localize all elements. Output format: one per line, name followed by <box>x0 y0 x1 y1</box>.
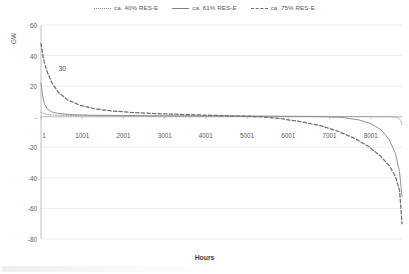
x-tick-label: 4001 <box>199 132 213 139</box>
legend-swatch-dotted-icon <box>94 5 111 11</box>
x-tick-label: 2001 <box>116 132 130 139</box>
x-tick-label: 8001 <box>364 132 378 139</box>
x-tick-label: 3001 <box>158 132 172 139</box>
y-axis-tick-labels: 604020--20-40-60-80 <box>0 25 37 239</box>
y-tick-label: -40 <box>3 174 37 181</box>
chart-legend: ca. 40% RES-E ca. 61% RES-E ca. 75% RES-… <box>0 4 409 11</box>
y-tick-label: -80 <box>3 236 37 243</box>
legend-item-61[interactable]: ca. 61% RES-E <box>172 4 236 11</box>
legend-swatch-dashed-icon <box>251 5 268 11</box>
x-tick-label: 1001 <box>75 132 89 139</box>
x-tick-label: 6001 <box>281 132 295 139</box>
legend-item-40[interactable]: ca. 40% RES-E <box>94 4 158 11</box>
x-tick-label: 5001 <box>240 132 254 139</box>
y-tick-label: 60 <box>3 22 37 29</box>
y-tick-label: 40 <box>3 52 37 59</box>
y-tick-label: -20 <box>3 144 37 151</box>
y-tick-label: 20 <box>3 83 37 90</box>
x-axis-tick-labels: 110012001300140015001600170018001 <box>41 129 402 141</box>
y-tick-label: -60 <box>3 205 37 212</box>
page-footer-smudge <box>2 266 222 272</box>
annotation-30: 30 <box>59 65 66 72</box>
x-tick-label: 7001 <box>322 132 336 139</box>
x-tick-label: 1 <box>42 132 46 139</box>
legend-swatch-solid-icon <box>172 5 189 11</box>
legend-label-40: ca. 40% RES-E <box>114 4 158 11</box>
legend-label-75: ca. 75% RES-E <box>271 4 315 11</box>
residual-load-duration-chart: ca. 40% RES-E ca. 61% RES-E ca. 75% RES-… <box>0 0 409 274</box>
y-tick-label: - <box>3 113 37 120</box>
legend-item-75[interactable]: ca. 75% RES-E <box>251 4 315 11</box>
legend-label-61: ca. 61% RES-E <box>192 4 236 11</box>
x-axis-title: Hours <box>0 254 409 261</box>
